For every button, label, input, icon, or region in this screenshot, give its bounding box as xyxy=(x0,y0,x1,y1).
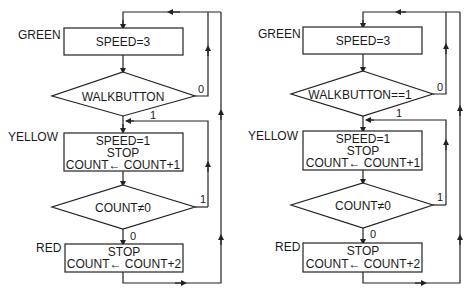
flowchart-canvas: GREEN SPEED=3 WALKBUTTON 0 1 YELLOW SPEE… xyxy=(0,0,468,294)
branch-label-1: 1 xyxy=(200,193,206,205)
yellow-action-3: COUNT← COUNT+1 xyxy=(306,156,421,170)
branch-label-0: 0 xyxy=(198,83,204,95)
state-label-red: RED xyxy=(36,241,62,255)
red-action-2: COUNT← COUNT+2 xyxy=(306,257,421,271)
yellow-action-3: COUNT← COUNT+1 xyxy=(66,158,181,172)
red-action-2: COUNT← COUNT+2 xyxy=(67,257,182,271)
state-label-green: GREEN xyxy=(258,27,301,41)
loop-top-line xyxy=(123,12,221,28)
state-label-red: RED xyxy=(275,240,301,254)
branch-label-1: 1 xyxy=(437,191,443,203)
decision-condition: COUNT≠0 xyxy=(335,199,391,213)
decision-condition: COUNT≠0 xyxy=(95,201,151,215)
state-label-yellow: YELLOW xyxy=(8,130,59,144)
branch-label-0: 0 xyxy=(370,228,376,240)
branch-label-0: 0 xyxy=(130,230,136,242)
branch-label-1: 1 xyxy=(396,107,402,119)
red-action-1: STOP xyxy=(347,244,379,258)
decision-condition: WALKBUTTON xyxy=(82,90,165,104)
flowchart-right: GREEN SPEED=3 WALKBUTTON==1 0 1 YELLOW S… xyxy=(248,12,460,283)
decision-condition: WALKBUTTON==1 xyxy=(308,88,412,102)
branch-label-1: 1 xyxy=(150,109,156,121)
branch-label-0: 0 xyxy=(437,81,443,93)
green-action: SPEED=3 xyxy=(96,35,151,49)
green-action: SPEED=3 xyxy=(336,34,391,48)
flowchart-left: GREEN SPEED=3 WALKBUTTON 0 1 YELLOW SPEE… xyxy=(8,12,221,283)
state-label-green: GREEN xyxy=(18,28,61,42)
state-label-yellow: YELLOW xyxy=(248,129,299,143)
